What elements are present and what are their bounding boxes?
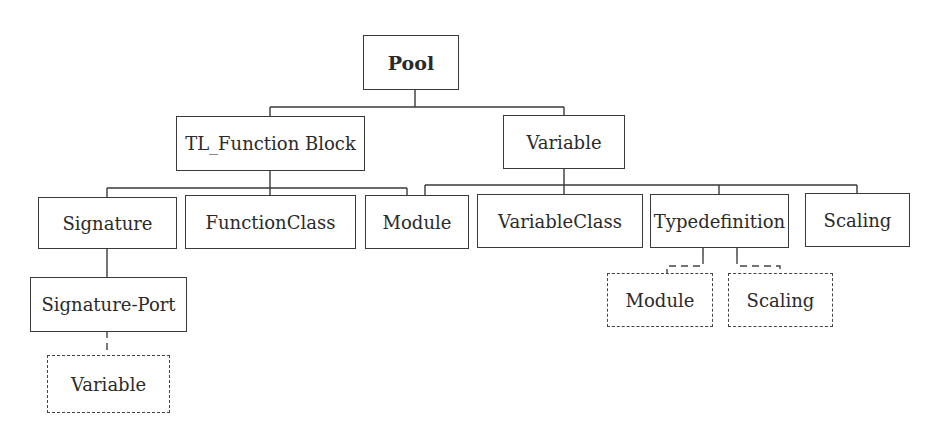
node-function-class[interactable]: FunctionClass	[185, 195, 356, 249]
node-ref-variable[interactable]: Variable	[47, 355, 170, 413]
edge-pool-children	[270, 89, 564, 116]
node-function-class-label: FunctionClass	[206, 212, 336, 233]
edge-typedef-stubs	[703, 247, 737, 257]
node-scaling[interactable]: Scaling	[805, 193, 910, 247]
node-pool[interactable]: Pool	[363, 35, 459, 90]
node-tl-function-block-label: TL_Function Block	[185, 133, 356, 154]
node-variable[interactable]: Variable	[503, 115, 625, 169]
node-ref-module[interactable]: Module	[607, 273, 713, 327]
node-signature-port-label: Signature-Port	[41, 294, 175, 315]
node-typedefinition-label: Typedefinition	[654, 211, 785, 232]
node-signature-label: Signature	[62, 213, 152, 234]
node-ref-module-label: Module	[626, 290, 695, 311]
edge-typedef-module-dashed	[667, 257, 703, 273]
node-signature-port[interactable]: Signature-Port	[30, 277, 187, 332]
node-ref-scaling[interactable]: Scaling	[728, 273, 833, 327]
node-typedefinition[interactable]: Typedefinition	[650, 194, 789, 248]
edge-tl-children	[107, 170, 407, 197]
node-module[interactable]: Module	[365, 195, 469, 249]
node-variable-label: Variable	[526, 132, 601, 153]
node-ref-scaling-label: Scaling	[747, 290, 815, 311]
node-variable-class[interactable]: VariableClass	[477, 194, 643, 248]
node-variable-class-label: VariableClass	[498, 211, 622, 232]
node-signature[interactable]: Signature	[38, 197, 177, 249]
diagram-canvas: Pool TL_Function Block Variable Signatur…	[0, 0, 936, 447]
edge-variable-children	[425, 168, 857, 195]
node-scaling-label: Scaling	[824, 210, 892, 231]
node-module-label: Module	[383, 212, 452, 233]
node-ref-variable-label: Variable	[71, 374, 146, 395]
node-tl-function-block[interactable]: TL_Function Block	[176, 116, 365, 171]
node-pool-label: Pool	[388, 52, 434, 74]
edge-typedef-scaling-dashed	[737, 257, 780, 273]
